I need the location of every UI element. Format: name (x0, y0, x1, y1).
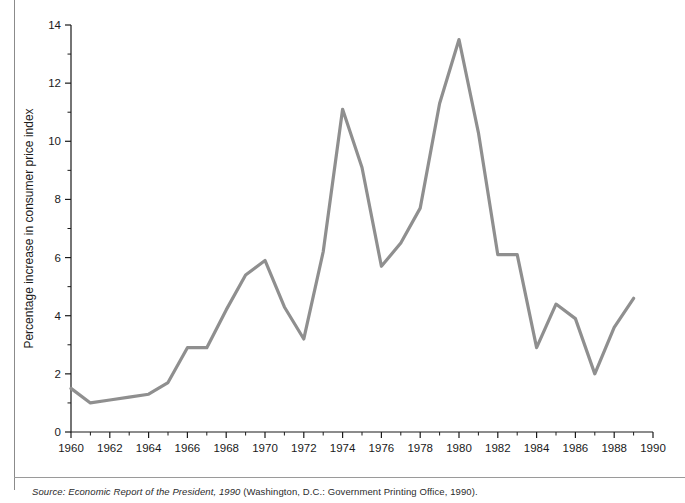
source-title: Economic Report of the President, 1990 (68, 486, 240, 497)
y-tick-label: 14 (48, 19, 61, 31)
x-tick-label: 1990 (640, 442, 666, 454)
x-tick-label: 1970 (252, 442, 278, 454)
y-tick-label: 10 (48, 135, 61, 147)
x-tick-label: 1978 (407, 442, 433, 454)
x-tick-label: 1986 (563, 442, 589, 454)
x-tick-label: 1962 (97, 442, 123, 454)
x-tick-label: 1988 (601, 442, 627, 454)
source-prefix: Source: (32, 486, 65, 497)
y-tick-label: 2 (55, 368, 61, 380)
x-tick-label: 1972 (291, 442, 317, 454)
cpi-data-line (71, 40, 634, 403)
x-tick-label: 1968 (213, 442, 239, 454)
x-tick-label: 1984 (524, 442, 550, 454)
y-tick-label: 8 (55, 193, 61, 205)
chart-axes (71, 25, 653, 432)
x-tick-label: 1966 (175, 442, 201, 454)
y-tick-label: 6 (55, 252, 61, 264)
y-tick-label: 4 (55, 310, 62, 322)
x-tick-label: 1974 (330, 442, 356, 454)
source-note: Source: Economic Report of the President… (32, 486, 478, 497)
x-tick-label: 1980 (446, 442, 472, 454)
y-tick-label: 0 (55, 426, 61, 438)
x-tick-label: 1964 (136, 442, 162, 454)
chart-plot-area: 0246810121419601962196419661968197019721… (0, 0, 685, 460)
x-tick-label: 1982 (485, 442, 511, 454)
y-axis-title: Percentage increase in consumer price in… (22, 108, 36, 348)
y-tick-label: 12 (48, 77, 61, 89)
source-publisher: (Washington, D.C.: Government Printing O… (243, 486, 477, 497)
cpi-line-chart: 0246810121419601962196419661968197019721… (0, 0, 685, 460)
x-tick-label: 1960 (58, 442, 84, 454)
x-tick-label: 1976 (369, 442, 395, 454)
source-divider (14, 477, 685, 478)
figure-container: 0246810121419601962196419661968197019721… (0, 0, 685, 503)
